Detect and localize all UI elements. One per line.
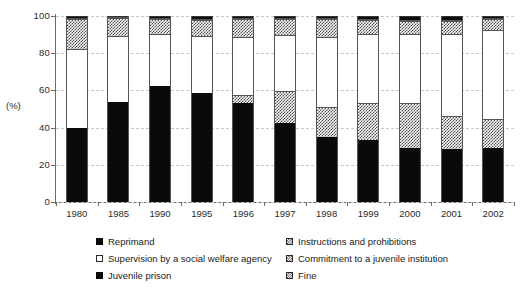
x-tick-mark: [56, 202, 57, 206]
bar-1998[interactable]: [316, 16, 338, 202]
bar-segment: [150, 86, 170, 202]
bar-group[interactable]: [441, 16, 463, 202]
bar-segment: [400, 34, 420, 104]
legend-row: Juvenile prisonFine: [96, 270, 496, 287]
legend-swatch-checker-icon: [286, 272, 293, 279]
bar-segment: [67, 128, 87, 202]
legend-item[interactable]: Commitment to a juvenile institution: [286, 253, 496, 264]
gridline: [56, 202, 514, 203]
bar-segment: [358, 103, 378, 139]
legend-label: Commitment to a juvenile institution: [298, 253, 448, 264]
legend-row: Supervision by a social welfare agencyCo…: [96, 253, 496, 270]
legend-item[interactable]: Juvenile prison: [96, 270, 286, 281]
x-tick-label-1985: 1985: [96, 208, 140, 219]
x-tick-label-1997: 1997: [263, 208, 307, 219]
bar-1990[interactable]: [149, 16, 171, 202]
bar-segment: [150, 34, 170, 86]
x-tick-label-2000: 2000: [388, 208, 432, 219]
legend-item[interactable]: Reprimand: [96, 236, 286, 247]
bar-group[interactable]: [399, 16, 421, 202]
legend-item[interactable]: Supervision by a social welfare agency: [96, 253, 286, 264]
x-tick-mark: [181, 202, 182, 206]
bar-2000[interactable]: [399, 16, 421, 202]
bar-segment: [233, 103, 253, 203]
bar-group[interactable]: [232, 16, 254, 202]
bar-segment: [442, 34, 462, 116]
x-tick-mark: [139, 202, 140, 206]
bar-segment: [483, 119, 503, 148]
x-tick-label-2001: 2001: [430, 208, 474, 219]
bar-segment: [442, 149, 462, 202]
y-tick-label: 60: [8, 84, 50, 95]
bar-segment: [317, 137, 337, 202]
y-tick-label: 40: [8, 122, 50, 133]
y-tick-label: 20: [8, 159, 50, 170]
x-tick-mark: [389, 202, 390, 206]
bar-segment: [275, 91, 295, 123]
legend-swatch-open-icon: [96, 255, 103, 262]
bar-segment: [400, 21, 420, 34]
bar-segment: [192, 20, 212, 36]
x-tick-label-1998: 1998: [305, 208, 349, 219]
chart-legend: ReprimandInstructions and prohibitionsSu…: [96, 236, 496, 287]
bar-segment: [483, 19, 503, 30]
bar-segment: [442, 21, 462, 34]
bar-segment: [192, 36, 212, 94]
bar-segment: [317, 37, 337, 107]
bar-segment: [150, 19, 170, 34]
bar-group[interactable]: [149, 16, 171, 202]
x-tick-mark: [472, 202, 473, 206]
bar-segment: [358, 140, 378, 202]
bar-segment: [483, 30, 503, 119]
legend-row: ReprimandInstructions and prohibitions: [96, 236, 496, 253]
legend-swatch-solid-icon: [96, 272, 103, 279]
y-tick-label: 100: [8, 10, 50, 21]
x-tick-label-2002: 2002: [471, 208, 515, 219]
bar-segment: [108, 102, 128, 202]
bar-segment: [108, 18, 128, 36]
bar-segment: [358, 20, 378, 34]
bar-segment: [108, 36, 128, 102]
bar-1999[interactable]: [357, 16, 379, 202]
legend-item[interactable]: Instructions and prohibitions: [286, 236, 496, 247]
legend-item[interactable]: Fine: [286, 270, 496, 281]
bar-segment: [275, 123, 295, 202]
x-tick-mark: [223, 202, 224, 206]
bar-2001[interactable]: [441, 16, 463, 202]
bar-group[interactable]: [357, 16, 379, 202]
bar-1995[interactable]: [191, 16, 213, 202]
y-axis-label: (%): [6, 100, 21, 111]
bar-group[interactable]: [482, 16, 504, 202]
bar-segment: [67, 19, 87, 49]
legend-label: Reprimand: [108, 236, 154, 247]
bar-segment: [442, 116, 462, 149]
legend-label: Supervision by a social welfare agency: [108, 253, 272, 264]
legend-label: Juvenile prison: [108, 270, 171, 281]
bar-segment: [358, 34, 378, 104]
bar-1980[interactable]: [66, 16, 88, 202]
bar-segment: [400, 103, 420, 148]
bar-1996[interactable]: [232, 16, 254, 202]
bar-segment: [275, 35, 295, 92]
x-tick-mark: [347, 202, 348, 206]
bar-group[interactable]: [274, 16, 296, 202]
y-tick-label: 0: [8, 196, 50, 207]
x-tick-label-1980: 1980: [55, 208, 99, 219]
bar-group[interactable]: [66, 16, 88, 202]
bar-2002[interactable]: [482, 16, 504, 202]
x-tick-label-1999: 1999: [346, 208, 390, 219]
x-tick-mark: [306, 202, 307, 206]
legend-swatch-solid-icon: [96, 238, 103, 245]
bar-1997[interactable]: [274, 16, 296, 202]
bar-segment: [400, 148, 420, 202]
bar-group[interactable]: [316, 16, 338, 202]
legend-label: Instructions and prohibitions: [298, 236, 416, 247]
plot-area: [56, 16, 514, 202]
bar-segment: [67, 49, 87, 128]
bar-group[interactable]: [191, 16, 213, 202]
bar-group[interactable]: [107, 16, 129, 202]
stacked-bar-chart: (%) 020406080100 19801985199019951996199…: [0, 0, 521, 298]
bar-segment: [317, 107, 337, 137]
bar-segment: [483, 148, 503, 202]
bar-1985[interactable]: [107, 16, 129, 202]
